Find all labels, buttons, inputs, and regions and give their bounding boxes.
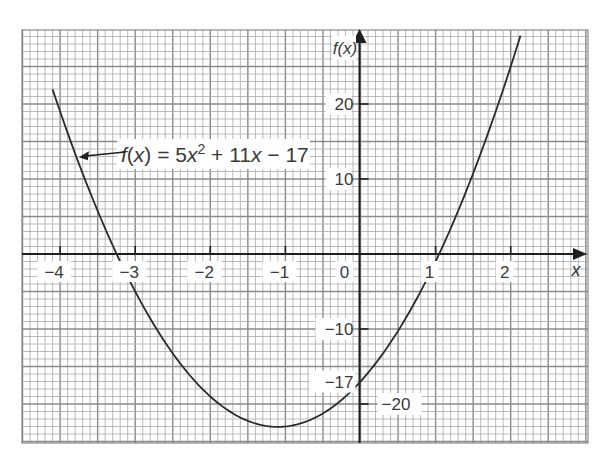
x-tick-label: −3: [120, 263, 139, 282]
y-tick-label: −10: [325, 320, 354, 339]
x-axis-title: x: [571, 260, 582, 280]
y-tick-label: −20: [382, 395, 411, 414]
x-tick-label: −1: [270, 263, 289, 282]
x-tick-label: −4: [44, 263, 63, 282]
y-tick-label: 10: [335, 170, 354, 189]
y-axis-title: f(x): [333, 39, 358, 58]
x-tick-label: 0: [340, 263, 349, 282]
y-tick-label: 20: [335, 95, 354, 114]
function-graph: −4−3−2−10122010−10−17−20f(x)x f(x) = 5x2…: [0, 0, 605, 461]
equation-label: f(x) = 5x2 + 11x − 17: [121, 141, 309, 166]
x-tick-label: −2: [195, 263, 214, 282]
x-tick-label: 2: [500, 263, 509, 282]
y-intercept-label: −17: [325, 373, 354, 392]
x-tick-label: 1: [425, 263, 434, 282]
